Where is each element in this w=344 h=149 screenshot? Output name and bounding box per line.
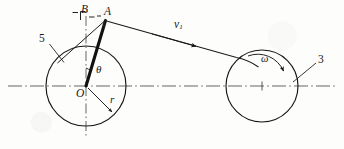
velocity-subscript: 1	[179, 23, 183, 31]
leader-line-5	[50, 44, 65, 63]
belt-velocity-arrow	[152, 34, 196, 46]
belt-wrap-right	[237, 58, 259, 68]
label-point-b: B	[81, 4, 88, 16]
diagram-canvas	[0, 0, 344, 149]
label-point-a: A	[104, 6, 111, 18]
radius-arrow	[88, 88, 112, 112]
crank-rod-OA	[86, 21, 106, 87]
label-radius: r	[110, 94, 114, 105]
mechanism-figure: B A O r θ ω v1 5 3	[0, 0, 344, 149]
label-point-o: O	[76, 88, 84, 100]
leader-line-3	[293, 63, 316, 82]
label-angle-theta: θ	[96, 64, 101, 75]
label-angular-velocity: ω	[261, 54, 268, 65]
belt-strand-left	[58, 22, 105, 64]
label-link-3: 3	[318, 54, 324, 66]
label-link-5: 5	[39, 33, 45, 45]
label-belt-velocity: v1	[174, 19, 183, 31]
